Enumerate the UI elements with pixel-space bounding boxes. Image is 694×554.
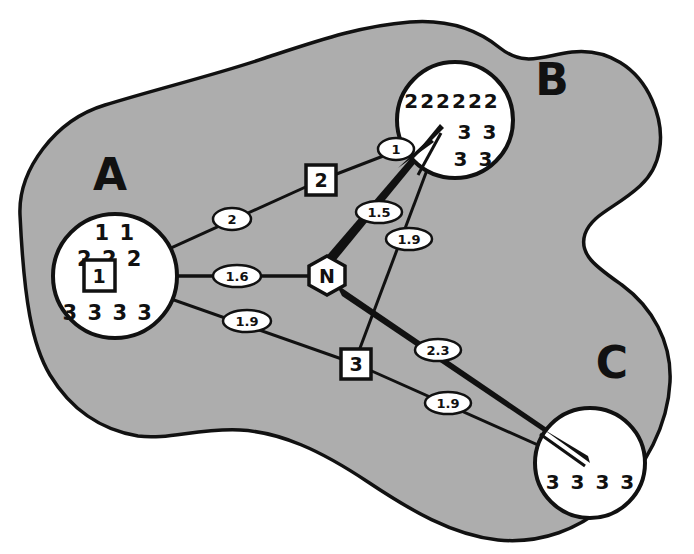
region-label-b: B bbox=[535, 54, 569, 105]
node-a-row-1: 1 1 bbox=[94, 221, 135, 245]
edge-weight-n-c[interactable]: 2.3 bbox=[415, 339, 461, 361]
box-marker-1-label: 1 bbox=[92, 265, 105, 287]
box-marker-3[interactable]: 3 bbox=[341, 349, 371, 379]
region-label-c: C bbox=[596, 337, 628, 388]
node-b-row-1: 222222 bbox=[404, 89, 500, 113]
edge-weight-ab-top-label: 1 bbox=[391, 142, 400, 157]
edge-weight-a-c-label: 1.9 bbox=[235, 314, 258, 329]
edge-weight-box3-b[interactable]: 1.9 bbox=[386, 228, 432, 250]
box-marker-2[interactable]: 2 bbox=[306, 165, 336, 195]
box-marker-3-label: 3 bbox=[349, 353, 362, 375]
edge-weight-a-c[interactable]: 1.9 bbox=[223, 310, 271, 332]
edge-weight-a-b-label: 2 bbox=[227, 212, 236, 227]
edge-weight-ab-top[interactable]: 1 bbox=[378, 138, 414, 160]
node-b-row-2: 3 3 bbox=[458, 120, 499, 144]
region-label-a: A bbox=[93, 149, 127, 200]
edge-weight-a-b[interactable]: 2 bbox=[213, 208, 251, 230]
box-marker-1[interactable]: 1 bbox=[84, 260, 115, 291]
edge-weight-n-b-label: 1.5 bbox=[367, 205, 390, 220]
edge-weight-n-c-label: 2.3 bbox=[426, 343, 449, 358]
edge-weight-box3-c[interactable]: 1.9 bbox=[425, 392, 471, 414]
node-c-row-1: 3 3 3 3 bbox=[546, 470, 637, 494]
node-a-row-3: 3 3 3 3 bbox=[63, 301, 154, 325]
diagram-canvas: 1 1 2 2 2 3 3 3 3 222222 3 3 3 3 3 3 3 3… bbox=[0, 0, 694, 554]
edge-weight-box3-c-label: 1.9 bbox=[436, 396, 459, 411]
edge-weight-a-n-label: 1.6 bbox=[225, 269, 248, 284]
hub-node-n-label: N bbox=[319, 265, 335, 287]
network-region-diagram: 1 1 2 2 2 3 3 3 3 222222 3 3 3 3 3 3 3 3… bbox=[0, 0, 694, 554]
edge-weight-box3-b-label: 1.9 bbox=[397, 232, 420, 247]
box-marker-2-label: 2 bbox=[314, 169, 327, 191]
hub-node-n[interactable]: N bbox=[309, 256, 345, 295]
edge-weight-a-n[interactable]: 1.6 bbox=[213, 265, 261, 287]
node-b-row-3: 3 3 bbox=[454, 147, 495, 171]
edge-weight-n-b[interactable]: 1.5 bbox=[356, 201, 402, 223]
